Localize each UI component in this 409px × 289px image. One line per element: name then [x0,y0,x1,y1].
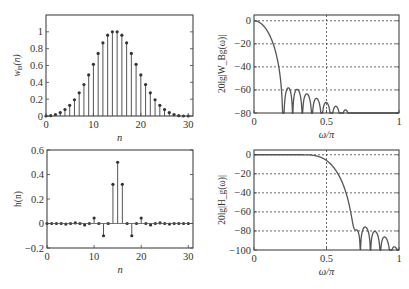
stem-marker [116,30,119,33]
y-axis-label: 20lg|W_Bg(ω)| [217,35,228,93]
y-axis-label: wB(n) [12,54,24,76]
stem-marker [73,98,76,101]
x-tick-label: 30 [183,119,194,130]
stem-marker [158,221,161,224]
stem-marker [140,216,143,219]
stem-marker [168,223,171,226]
stem-marker [101,41,104,44]
x-axis-label: ω/π [319,266,335,277]
x-tick-label: 0.5 [320,116,333,127]
stem-marker [111,30,114,33]
stem-marker [68,104,71,107]
x-tick-label: 1 [396,116,401,127]
stem-marker [163,108,166,111]
y-tick-label: −40 [235,61,251,72]
x-tick-label: 0 [251,116,256,127]
y-tick-label: 0 [39,218,44,229]
stem-marker [74,221,77,224]
x-axis-label: n [117,264,122,275]
stem-marker [92,63,95,66]
x-tick-label: 0 [43,119,48,130]
axes-box [47,150,193,248]
x-tick-label: 20 [136,251,147,262]
x-tick-label: 10 [89,251,100,262]
axes-box [46,15,193,116]
y-tick-label: −20 [235,168,251,179]
y-tick-label: −100 [229,245,251,256]
x-tick-label: 20 [136,119,147,130]
stem-marker [144,83,147,86]
y-tick-label: −60 [235,206,251,217]
stem-marker [116,161,119,164]
y-tick-label: −80 [235,108,251,119]
y-tick-label: 0.2 [30,94,43,105]
y-axis-label: 20lg|H_g(ω)| [217,175,228,225]
x-tick-label: 0 [44,251,49,262]
x-tick-label: 1 [396,253,401,264]
x-axis-label: n [117,132,122,143]
impulse-response-stem-plot: −0.200.20.40.60102030nh(n) [13,145,194,276]
y-tick-label: 0.2 [31,194,44,205]
y-tick-label: 0.4 [31,169,45,180]
x-tick-label: 0.5 [320,253,333,264]
stem-marker [87,73,90,76]
stem-marker [130,52,133,55]
stem-marker [130,234,133,237]
stem-marker [59,111,62,114]
y-tick-label: 0.6 [31,145,44,156]
stem-marker [64,223,67,226]
y-tick-label: −40 [235,187,251,198]
stem-marker [120,34,123,37]
x-tick-label: 10 [88,119,99,130]
y-tick-label: 1 [38,26,43,37]
y-axis-label: h(n) [13,191,24,207]
window-stem-plot: 00.20.40.60.810102030nwB(n) [12,15,194,143]
stem-marker [106,34,109,37]
stem-marker [153,98,156,101]
y-tick-label: −0.2 [25,243,44,254]
filter-magnitude-plot: 0−20−40−60−80−10000.51ω/π20lg|H_g(ω)| [217,149,402,277]
y-tick-label: −20 [235,38,251,49]
stem-marker [125,41,128,44]
y-tick-label: −60 [235,84,251,95]
figure: 00.20.40.60.810102030nwB(n) 0−20−40−60−8… [0,0,409,289]
y-tick-label: 0.4 [30,77,44,88]
stem-marker [111,183,114,186]
stem-marker [134,63,137,66]
stem-marker [82,83,85,86]
window-magnitude-plot: 0−20−40−60−8000.51ω/π20lg|W_Bg(ω)| [217,15,402,140]
x-tick-label: 30 [183,251,194,262]
y-tick-label: 0 [246,15,251,26]
stem-marker [158,104,161,107]
stem-marker [168,111,171,114]
stem-marker [149,91,152,94]
y-tick-label: 0 [38,111,43,122]
stem-marker [63,108,66,111]
y-tick-label: 0 [246,149,251,160]
stem-marker [102,234,105,237]
y-tick-label: 0.6 [30,60,43,71]
x-axis-label: ω/π [319,129,335,140]
stem-marker [139,73,142,76]
stem-marker [92,216,95,219]
y-tick-label: −80 [235,225,251,236]
stem-marker [97,52,100,55]
y-tick-label: 0.8 [30,43,43,54]
stem-marker [121,183,124,186]
x-tick-label: 0 [251,253,256,264]
stem-marker [78,91,81,94]
